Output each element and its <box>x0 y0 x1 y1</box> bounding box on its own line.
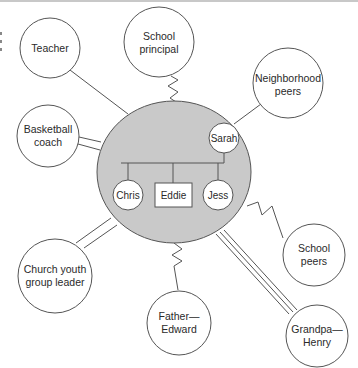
basketball-coach-label-line1: Basketball <box>24 123 72 135</box>
ecomap-diagram: Sarah Chris Eddie Jess Teacher School pr… <box>0 0 358 368</box>
eddie-label: Eddie <box>161 190 187 201</box>
member-jess: Jess <box>203 180 233 210</box>
node-church-youth-group-leader: Church youth group leader <box>18 239 92 313</box>
father-edward-label-line1: Father— <box>159 310 200 322</box>
connection-father-edward <box>172 243 182 290</box>
connection-grandpa-henry <box>216 230 297 314</box>
node-neighborhood-peers: Neighborhood peers <box>253 48 323 118</box>
diagram-canvas: Sarah Chris Eddie Jess Teacher School pr… <box>0 0 358 368</box>
teacher-label: Teacher <box>31 42 69 54</box>
household-hub <box>97 101 251 243</box>
jess-label: Jess <box>208 190 229 201</box>
node-grandpa-henry: Grandpa— Henry <box>286 305 348 367</box>
member-sarah: Sarah <box>209 123 239 153</box>
node-school-peers: School peers <box>283 224 345 286</box>
basketball-coach-label-line2: coach <box>34 136 62 148</box>
church-youth-group-leader-label-line2: group leader <box>26 276 85 288</box>
node-teacher: Teacher <box>20 18 80 78</box>
school-principal-label-line2: principal <box>139 43 178 55</box>
member-eddie: Eddie <box>155 183 192 207</box>
connection-church-youth-group-leader <box>76 218 117 248</box>
school-peers-label-line2: peers <box>301 255 327 267</box>
grandpa-henry-label-line1: Grandpa— <box>291 323 343 335</box>
school-principal-label-line1: School <box>143 30 175 42</box>
connection-school-peers <box>247 202 283 238</box>
connection-teacher <box>70 70 128 114</box>
school-principal-circle <box>124 7 194 77</box>
node-basketball-coach: Basketball coach <box>17 105 79 167</box>
node-father-edward: Father— Edward <box>147 291 211 355</box>
member-chris: Chris <box>113 180 143 210</box>
connection-neighborhood-peers <box>234 104 261 124</box>
school-peers-label-line1: School <box>298 242 330 254</box>
church-youth-group-leader-label-line1: Church youth <box>24 263 87 275</box>
grandpa-henry-label-line2: Henry <box>303 336 332 348</box>
node-school-principal: School principal <box>124 7 194 77</box>
neighborhood-peers-label-line1: Neighborhood <box>255 72 321 84</box>
connection-school-principal <box>168 76 178 102</box>
connection-basketball-coach <box>78 137 101 150</box>
sarah-label: Sarah <box>211 133 238 144</box>
father-edward-label-line2: Edward <box>161 323 197 335</box>
chris-label: Chris <box>116 190 139 201</box>
neighborhood-peers-label-line2: peers <box>275 85 301 97</box>
